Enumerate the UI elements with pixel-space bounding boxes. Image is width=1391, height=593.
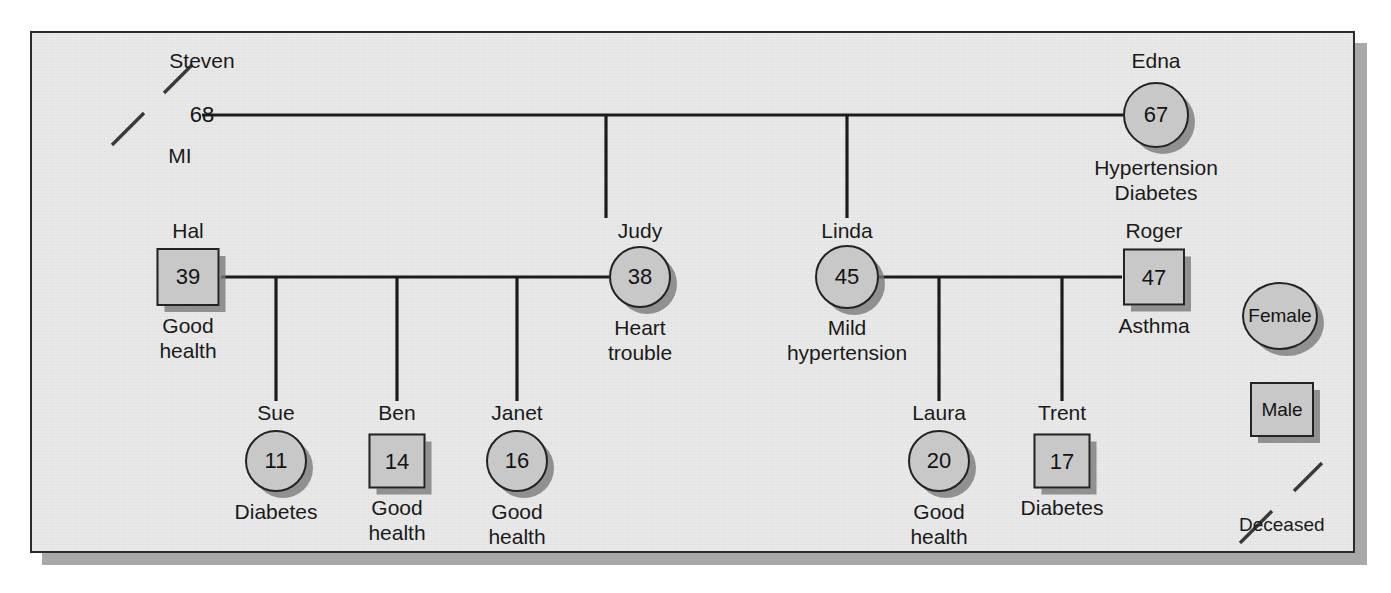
person-note: Diabetes (235, 499, 318, 524)
person-age: 14 (385, 448, 409, 474)
legend-deceased-slash-upper (1294, 463, 1322, 491)
person-note: Good health (488, 499, 545, 549)
person-note: MI (168, 143, 191, 168)
person-name: Judy (618, 219, 662, 243)
person-note: Asthma (1118, 313, 1189, 338)
person-name: Hal (172, 219, 204, 243)
legend-female-symbol: Female (1242, 282, 1318, 350)
person-note: Diabetes (1021, 495, 1104, 520)
person-shape-female[interactable]: 38 (609, 246, 671, 308)
person-shape-male[interactable]: 14 (369, 434, 426, 489)
person-name: Sue (257, 401, 294, 425)
person-name: Janet (491, 401, 542, 425)
person-age: 39 (176, 264, 200, 290)
person-shape-male[interactable]: 17 (1034, 434, 1091, 489)
person-shape-female[interactable]: 45 (815, 245, 879, 309)
genogram-frame: Steven 68 MI Edna 67 Hypertension Diabet… (30, 31, 1355, 553)
person-age: 67 (1144, 102, 1168, 128)
person-name: Steven (169, 49, 234, 73)
person-name: Linda (821, 219, 872, 243)
person-note: Hypertension Diabetes (1094, 155, 1218, 205)
person-age: 17 (1050, 448, 1074, 474)
person-shape-female[interactable]: 16 (486, 430, 548, 492)
person-shape-female[interactable]: 67 (1123, 82, 1189, 148)
person-note: Good health (368, 495, 425, 545)
person-note: Mild hypertension (787, 315, 907, 365)
person-shape-female[interactable]: 11 (245, 430, 307, 492)
legend-deceased-label: Deceased (1239, 514, 1325, 536)
person-name: Laura (912, 401, 966, 425)
person-age: 20 (927, 448, 951, 474)
legend-male-label: Male (1261, 399, 1302, 421)
deceased-slash-lower (112, 113, 144, 145)
person-age: 16 (505, 448, 529, 474)
genogram-canvas: Steven 68 MI Edna 67 Hypertension Diabet… (32, 33, 1353, 551)
person-shape-female[interactable]: 20 (908, 430, 970, 492)
person-age: 47 (1142, 264, 1166, 290)
person-age: 11 (265, 448, 288, 474)
person-note: Heart trouble (608, 315, 672, 365)
person-note: Good health (910, 499, 967, 549)
person-name: Trent (1038, 401, 1086, 425)
legend-female-label: Female (1248, 305, 1311, 327)
person-name: Roger (1125, 219, 1182, 243)
person-shape-male[interactable]: 47 (1123, 249, 1185, 306)
person-age: 38 (628, 264, 652, 290)
person-shape-male[interactable]: 39 (157, 248, 220, 306)
person-name: Edna (1131, 49, 1180, 73)
legend-male-symbol: Male (1250, 382, 1314, 437)
person-age: 68 (190, 102, 214, 128)
person-name: Ben (378, 401, 415, 425)
person-age: 45 (835, 264, 859, 290)
person-note: Good health (159, 313, 216, 363)
person-shape-deceased: 68 (173, 93, 231, 137)
